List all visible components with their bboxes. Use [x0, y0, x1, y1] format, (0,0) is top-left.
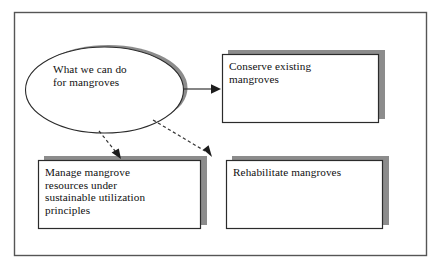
diagram-graphics [0, 0, 440, 269]
diagram-canvas: What we can do for mangroves Conserve ex… [0, 0, 440, 269]
rehabilitate-node-box[interactable] [227, 161, 383, 229]
conserve-node-box[interactable] [223, 55, 379, 123]
root-node-ellipse[interactable] [26, 47, 184, 133]
manage-node-box[interactable] [39, 161, 201, 229]
